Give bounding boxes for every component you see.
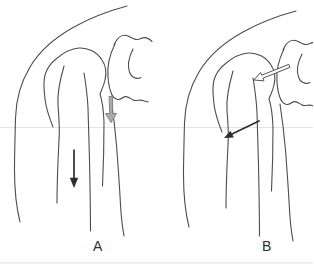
black-diagonal-arrow-icon [224, 121, 259, 138]
figure-canvas [0, 0, 313, 265]
black-down-arrow-icon [70, 150, 78, 188]
figure-stage: A B [0, 0, 313, 265]
bottom-edge-artifact [0, 262, 313, 264]
panel-b-label: B [257, 239, 277, 253]
gray-down-arrow-icon [105, 97, 116, 123]
panel-a-illustration [15, 6, 153, 236]
panel-a-label: A [88, 239, 108, 253]
panel-b-illustration [184, 11, 314, 241]
